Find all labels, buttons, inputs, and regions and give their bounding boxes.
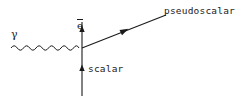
photon-wavy-line bbox=[11, 46, 79, 50]
positron-label-text: e bbox=[77, 19, 83, 31]
scalar-arrowhead-icon bbox=[79, 65, 84, 72]
feynman-diagram-figure: γ e scalar pseudoscalar bbox=[0, 0, 242, 108]
positron-label: e bbox=[77, 19, 83, 31]
scalar-label: scalar bbox=[88, 64, 124, 74]
pseudoscalar-label: pseudoscalar bbox=[164, 6, 235, 16]
diagram-canvas bbox=[0, 0, 242, 108]
pseudoscalar-arrowhead-icon bbox=[120, 29, 129, 35]
photon-label: γ bbox=[11, 29, 18, 40]
